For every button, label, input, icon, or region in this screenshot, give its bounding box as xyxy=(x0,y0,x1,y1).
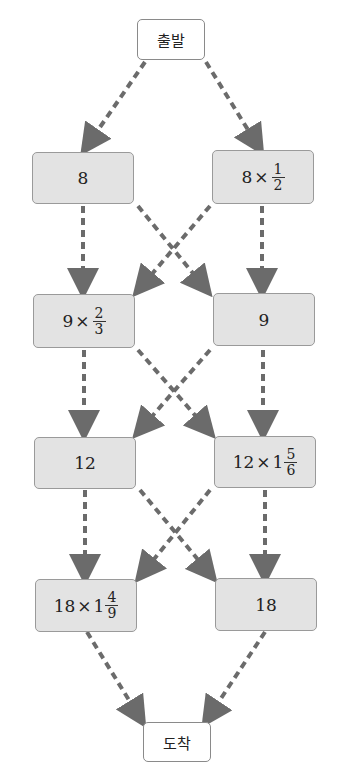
node-row1-right: 8 × 1 2 xyxy=(212,150,314,204)
numerator: 5 xyxy=(284,447,297,463)
fraction: 2 3 xyxy=(93,306,106,336)
denominator: 3 xyxy=(93,322,106,337)
denominator: 6 xyxy=(284,463,297,478)
times-sign: × xyxy=(254,167,268,187)
node-row2-right: 9 xyxy=(213,293,315,346)
numerator: 4 xyxy=(105,590,118,606)
whole: 18 xyxy=(54,596,76,616)
end-label: 도착 xyxy=(163,732,191,753)
times-sign: × xyxy=(256,452,270,472)
whole: 9 xyxy=(63,311,74,331)
value: 12 xyxy=(74,453,96,473)
node-row4-left: 18 × 1 4 9 xyxy=(35,579,137,632)
times-sign: × xyxy=(77,596,91,616)
denominator: 9 xyxy=(105,606,118,621)
node-row1-left: 8 xyxy=(32,152,134,204)
node-row3-left: 12 xyxy=(34,437,136,489)
start-node: 출발 xyxy=(137,19,205,60)
fraction: 4 9 xyxy=(105,590,118,620)
fraction: 1 2 xyxy=(272,162,285,192)
value: 8 xyxy=(78,168,89,188)
times-sign: × xyxy=(75,311,89,331)
end-node: 도착 xyxy=(143,722,211,762)
whole: 8 xyxy=(242,167,253,187)
node-row4-right: 18 xyxy=(215,578,317,631)
value: 9 xyxy=(259,310,270,330)
fraction: 5 6 xyxy=(284,447,297,477)
mixed-whole: 1 xyxy=(94,596,105,616)
numerator: 1 xyxy=(272,162,285,178)
mixed-whole: 1 xyxy=(273,452,284,472)
numerator: 2 xyxy=(93,306,106,322)
arrows-layer xyxy=(0,0,338,778)
value: 18 xyxy=(255,595,277,615)
denominator: 2 xyxy=(272,178,285,193)
node-row2-left: 9 × 2 3 xyxy=(33,294,135,348)
whole: 12 xyxy=(233,452,255,472)
start-label: 출발 xyxy=(157,29,185,50)
node-row3-right: 12 × 1 5 6 xyxy=(214,436,316,488)
